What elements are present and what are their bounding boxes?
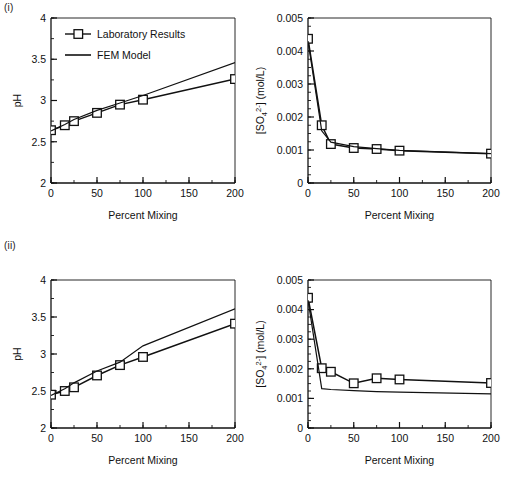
y-tick-label: 4 (40, 12, 46, 24)
y-tick-label: 3 (40, 94, 46, 106)
x-axis-title: Percent Mixing (108, 454, 178, 466)
x-tick-label: 0 (48, 432, 54, 444)
y-axis-title: [SO42-] (mol/L) (254, 320, 269, 387)
x-axis-title: Percent Mixing (365, 454, 435, 466)
x-axis-title: Percent Mixing (108, 209, 178, 221)
x-tick-label: 50 (348, 432, 360, 444)
legend-entry-fem-model: FEM Model (65, 49, 151, 61)
chart-panel-i-so4: 05010015020000.0010.0020.0030.0040.005Pe… (253, 6, 506, 231)
y-tick-label: 2 (40, 177, 46, 189)
y-tick-label: 0.004 (277, 303, 303, 315)
y-tick-label: 2 (40, 422, 46, 434)
chart-i-ph-svg: 05010015020022.533.54Percent MixingpHLab… (0, 6, 253, 231)
data-point-marker (139, 353, 148, 362)
x-tick-label: 150 (180, 187, 198, 199)
data-point-marker (349, 379, 358, 388)
y-tick-label: 0.005 (277, 274, 303, 286)
data-point-marker (47, 390, 56, 399)
y-axis-title: pH (11, 347, 23, 360)
x-tick-label: 200 (482, 432, 500, 444)
x-tick-label: 200 (482, 187, 500, 199)
legend-entry-laboratory-results: Laboratory Results (65, 28, 185, 40)
y-tick-label: 3.5 (31, 53, 46, 65)
x-tick-label: 100 (391, 187, 409, 199)
x-tick-label: 0 (305, 432, 311, 444)
data-point-marker (395, 375, 404, 384)
data-point-marker (231, 319, 240, 328)
y-tick-label: 0.002 (277, 363, 303, 375)
chart-panel-ii-so4: 05010015020000.0010.0020.0030.0040.005Pe… (253, 258, 506, 483)
y-tick-label: 3 (40, 348, 46, 360)
x-tick-label: 150 (436, 432, 454, 444)
chart-panel-ii-ph: 05010015020022.533.54Percent MixingpH (0, 258, 253, 483)
y-axis-title: pH (11, 94, 23, 107)
data-point-marker (487, 379, 496, 388)
x-tick-label: 100 (134, 432, 152, 444)
y-tick-label: 2.5 (31, 385, 46, 397)
x-tick-label: 200 (226, 187, 244, 199)
series-line (308, 41, 491, 154)
data-point-marker (349, 144, 358, 153)
y-tick-label: 3.5 (31, 311, 46, 323)
figure-root: (i) (ii) 05010015020022.533.54Percent Mi… (0, 0, 506, 489)
y-tick-label: 4 (40, 274, 46, 286)
data-point-marker (327, 367, 336, 376)
series-line (308, 39, 491, 154)
legend-marker-open-square (74, 30, 83, 39)
y-tick-label: 0.005 (277, 12, 303, 24)
y-tick-label: 0.001 (277, 144, 303, 156)
chart-i-so4-svg: 05010015020000.0010.0020.0030.0040.005Pe… (253, 6, 506, 231)
data-point-marker (372, 374, 381, 383)
chart-ii-so4-svg: 05010015020000.0010.0020.0030.0040.005Pe… (253, 258, 506, 483)
y-tick-label: 0.003 (277, 78, 303, 90)
y-tick-label: 0.002 (277, 111, 303, 123)
y-axis-title: [SO42-] (mol/L) (254, 67, 269, 134)
x-tick-label: 50 (348, 187, 360, 199)
chart-panel-i-ph: 05010015020022.533.54Percent MixingpHLab… (0, 6, 253, 231)
y-tick-label: 0.003 (277, 333, 303, 345)
data-point-marker (61, 387, 70, 396)
x-axis-title: Percent Mixing (365, 209, 435, 221)
y-tick-label: 0 (297, 177, 303, 189)
data-point-marker (231, 75, 240, 84)
x-tick-label: 50 (91, 432, 103, 444)
legend-label-fem-model: FEM Model (97, 49, 151, 61)
x-tick-label: 100 (134, 187, 152, 199)
x-tick-label: 200 (226, 432, 244, 444)
x-tick-label: 50 (91, 187, 103, 199)
y-tick-label: 0 (297, 422, 303, 434)
x-tick-label: 0 (48, 187, 54, 199)
x-tick-label: 150 (180, 432, 198, 444)
x-tick-label: 150 (436, 187, 454, 199)
x-tick-label: 100 (391, 432, 409, 444)
y-tick-label: 0.001 (277, 392, 303, 404)
chart-ii-ph-svg: 05010015020022.533.54Percent MixingpH (0, 258, 253, 483)
y-tick-label: 0.004 (277, 45, 303, 57)
panel-ii-label: (ii) (4, 240, 16, 251)
x-tick-label: 0 (305, 187, 311, 199)
y-tick-label: 2.5 (31, 136, 46, 148)
legend-label-laboratory-results: Laboratory Results (97, 28, 185, 40)
data-point-marker (327, 140, 336, 149)
